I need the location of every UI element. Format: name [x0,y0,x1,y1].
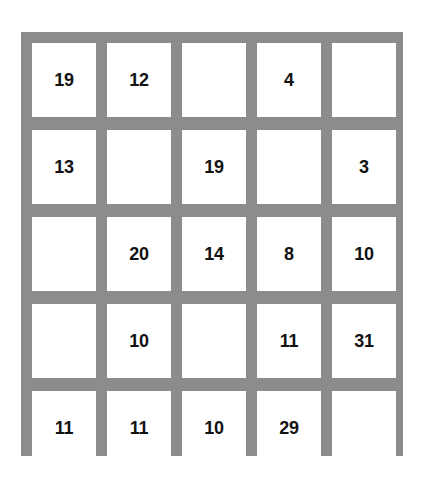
cell-value: 13 [54,158,74,176]
grid-cell-r4c5[interactable]: 31 [332,304,396,378]
grid-cell-r2c5[interactable]: 3 [332,130,396,204]
cell-value: 10 [129,332,149,350]
cell-value: 11 [280,332,299,350]
grid-cell-r3c2[interactable]: 20 [107,217,171,291]
grid-cell-r1c2[interactable]: 12 [107,43,171,117]
cell-value: 29 [279,419,299,437]
grid-cell-r2c3[interactable]: 19 [182,130,246,204]
grid-cell-r5c4[interactable]: 29 [257,391,321,465]
grid-cell-r2c2[interactable] [107,130,171,204]
number-grid-board: 19 12 4 13 19 3 20 14 8 10 10 11 31 11 1… [21,32,403,456]
cell-value: 4 [284,71,294,89]
grid-cell-r3c5[interactable]: 10 [332,217,396,291]
cell-value: 3 [359,158,369,176]
grid-cell-r3c3[interactable]: 14 [182,217,246,291]
grid-cell-r5c3[interactable]: 10 [182,391,246,465]
grid-cell-r1c1[interactable]: 19 [32,43,96,117]
cell-value: 11 [130,419,149,437]
grid-cell-r4c3[interactable] [182,304,246,378]
grid-cell-r1c3[interactable] [182,43,246,117]
grid-cell-r4c1[interactable] [32,304,96,378]
grid-cell-r1c5[interactable] [332,43,396,117]
cell-value: 11 [55,419,74,437]
cell-value: 20 [129,245,149,263]
grid-cell-r2c1[interactable]: 13 [32,130,96,204]
cell-value: 12 [129,71,149,89]
cell-value: 19 [54,71,74,89]
grid-cell-r1c4[interactable]: 4 [257,43,321,117]
cell-value: 8 [284,245,294,263]
grid-cell-r5c5[interactable] [332,391,396,465]
cell-value: 10 [354,245,374,263]
grid-cell-r3c1[interactable] [32,217,96,291]
cell-value: 19 [204,158,224,176]
cell-value: 14 [204,245,224,263]
grid-cell-r5c1[interactable]: 11 [32,391,96,465]
grid-cell-r4c2[interactable]: 10 [107,304,171,378]
cell-value: 31 [354,332,374,350]
grid-cell-r5c2[interactable]: 11 [107,391,171,465]
grid-cell-r2c4[interactable] [257,130,321,204]
grid-cell-r3c4[interactable]: 8 [257,217,321,291]
cell-value: 10 [204,419,224,437]
grid-cell-r4c4[interactable]: 11 [257,304,321,378]
